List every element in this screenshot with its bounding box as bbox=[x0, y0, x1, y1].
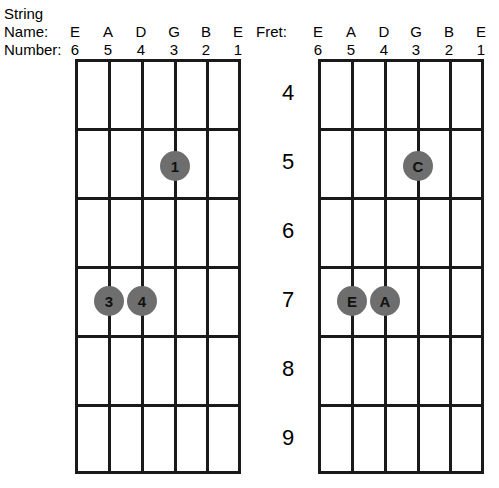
string-header-label: String bbox=[4, 6, 43, 21]
fret-number-8: 8 bbox=[265, 358, 311, 380]
string-line-3 bbox=[174, 59, 177, 474]
string-number-1-right: 1 bbox=[471, 42, 491, 57]
string-line-3-right bbox=[417, 59, 420, 474]
string-line-1 bbox=[238, 59, 241, 474]
string-name-3-right: G bbox=[406, 24, 426, 39]
string-name-5-right: A bbox=[341, 24, 361, 39]
fret-header-label: Fret: bbox=[256, 24, 287, 39]
string-name-2: B bbox=[196, 24, 216, 39]
fret-line-7 bbox=[75, 335, 241, 338]
nut-line-right bbox=[318, 59, 484, 62]
fret-number-9: 9 bbox=[265, 427, 311, 449]
fret-line-7-right bbox=[318, 335, 484, 338]
string-number-2-right: 2 bbox=[439, 42, 459, 57]
fret-line-5-right bbox=[318, 197, 484, 200]
fret-line-4-right bbox=[318, 128, 484, 131]
fret-line-6 bbox=[75, 266, 241, 269]
finger-marker-1[interactable]: 1 bbox=[160, 151, 190, 181]
string-number-5: 5 bbox=[98, 42, 118, 57]
fret-line-4 bbox=[75, 128, 241, 131]
string-line-4-right bbox=[384, 59, 387, 474]
note-marker-a[interactable]: A bbox=[370, 286, 400, 316]
string-number-5-right: 5 bbox=[341, 42, 361, 57]
fret-line-8-right bbox=[318, 404, 484, 407]
string-name-2-right: B bbox=[439, 24, 459, 39]
string-name-label: Name: bbox=[4, 24, 48, 39]
finger-marker-3[interactable]: 3 bbox=[94, 286, 124, 316]
finger-marker-4[interactable]: 4 bbox=[127, 286, 157, 316]
string-number-3: 3 bbox=[164, 42, 184, 57]
string-number-6: 6 bbox=[65, 42, 85, 57]
string-name-6-right: E bbox=[308, 24, 328, 39]
fret-line-8 bbox=[75, 404, 241, 407]
note-marker-e[interactable]: E bbox=[337, 286, 367, 316]
string-number-label: Number: bbox=[4, 42, 62, 57]
fret-line-9-right bbox=[318, 471, 484, 474]
fret-number-5: 5 bbox=[265, 151, 311, 173]
fret-number-7: 7 bbox=[265, 289, 311, 311]
string-name-1-right: E bbox=[471, 24, 491, 39]
string-line-5 bbox=[108, 59, 111, 474]
string-line-2 bbox=[206, 59, 209, 474]
nut-line bbox=[75, 59, 241, 62]
string-number-6-right: 6 bbox=[308, 42, 328, 57]
string-number-1: 1 bbox=[228, 42, 248, 57]
string-line-6 bbox=[75, 59, 78, 474]
fret-number-4: 4 bbox=[265, 82, 311, 104]
string-name-6: E bbox=[65, 24, 85, 39]
string-line-1-right bbox=[481, 59, 484, 474]
string-line-6-right bbox=[318, 59, 321, 474]
fret-line-6-right bbox=[318, 266, 484, 269]
fret-number-6: 6 bbox=[265, 220, 311, 242]
string-name-1: E bbox=[228, 24, 248, 39]
string-name-4-right: D bbox=[374, 24, 394, 39]
fret-line-9 bbox=[75, 471, 241, 474]
string-line-2-right bbox=[449, 59, 452, 474]
string-name-5: A bbox=[98, 24, 118, 39]
string-number-3-right: 3 bbox=[406, 42, 426, 57]
note-marker-c[interactable]: C bbox=[403, 151, 433, 181]
string-name-3: G bbox=[164, 24, 184, 39]
string-number-4-right: 4 bbox=[374, 42, 394, 57]
string-number-4: 4 bbox=[131, 42, 151, 57]
fret-line-5 bbox=[75, 197, 241, 200]
string-name-4: D bbox=[131, 24, 151, 39]
string-number-2: 2 bbox=[196, 42, 216, 57]
string-line-5-right bbox=[351, 59, 354, 474]
string-line-4 bbox=[141, 59, 144, 474]
